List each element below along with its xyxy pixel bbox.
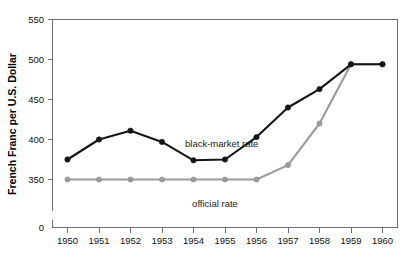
x-tick-label: 1956: [246, 235, 267, 246]
x-axis-tick-labels: 1950 1951 1952 1953 1954 1955 1956 1957 …: [57, 235, 393, 246]
x-tick-label: 1957: [277, 235, 298, 246]
data-point-marker: [96, 137, 101, 142]
data-point-marker: [191, 177, 196, 182]
y-tick-label: 550: [28, 14, 44, 25]
black-market-rate-label: black-market rate: [185, 138, 258, 149]
x-tick-label: 1953: [151, 235, 172, 246]
x-tick-label: 1955: [214, 235, 235, 246]
official-rate-label: official rate: [192, 198, 238, 209]
x-tick-label: 1954: [183, 235, 204, 246]
data-point-marker: [222, 177, 227, 182]
y-tick-label-zero: 0: [39, 222, 44, 233]
x-axis-ticks: [68, 228, 383, 233]
data-point-marker: [128, 128, 133, 133]
series-annotations: black-market rate official rate: [185, 138, 258, 209]
line-chart: 550 500 450 400 350 0 French Franc per U…: [0, 0, 414, 258]
x-tick-label: 1951: [88, 235, 109, 246]
data-point-marker: [128, 177, 133, 182]
chart-figure: 550 500 450 400 350 0 French Franc per U…: [0, 0, 414, 258]
y-axis-title: French Franc per U.S. Dollar: [6, 53, 18, 195]
data-point-marker: [159, 177, 164, 182]
x-tick-label: 1950: [57, 235, 78, 246]
x-tick-label: 1958: [309, 235, 330, 246]
y-tick-label: 450: [28, 94, 44, 105]
plot-frame: [53, 20, 398, 228]
data-point-marker: [159, 139, 164, 144]
y-tick-label: 350: [28, 174, 44, 185]
data-point-marker: [254, 177, 259, 182]
y-tick-label: 500: [28, 54, 44, 65]
data-point-marker: [285, 163, 290, 168]
data-point-marker: [285, 105, 290, 110]
data-point-marker: [222, 157, 227, 162]
data-point-marker: [96, 177, 101, 182]
x-tick-label: 1960: [372, 235, 393, 246]
y-axis-tick-labels: 550 500 450 400 350 0: [28, 14, 44, 233]
data-point-marker: [317, 121, 322, 126]
y-tick-label: 400: [28, 134, 44, 145]
data-point-marker: [65, 177, 70, 182]
x-tick-label: 1959: [340, 235, 361, 246]
data-point-marker: [65, 157, 70, 162]
data-point-marker: [191, 158, 196, 163]
data-point-marker: [317, 86, 322, 91]
x-tick-label: 1952: [120, 235, 141, 246]
y-axis-ticks: [48, 20, 53, 180]
data-point-marker: [348, 62, 353, 67]
series-official-rate: [65, 62, 385, 182]
data-point-marker: [380, 62, 385, 67]
